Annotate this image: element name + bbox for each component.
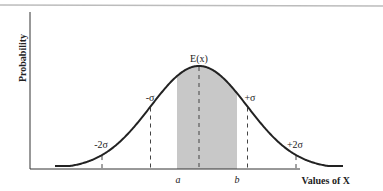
normal-distribution-diagram: Probability Values of X E(x) -σ +σ -2σ +… [0,0,383,191]
b-label: b [235,174,240,185]
minus-2sigma-label: -2σ [94,139,108,150]
minus-sigma-label: -σ [146,92,155,103]
x-axis-label: Values of X [301,175,350,186]
plus-sigma-label: +σ [244,92,256,103]
y-axis-label: Probability [17,34,28,82]
mean-label: E(x) [190,53,208,65]
plus-2sigma-label: +2σ [287,139,304,150]
top-rule [0,5,383,6]
a-label: a [176,174,181,185]
